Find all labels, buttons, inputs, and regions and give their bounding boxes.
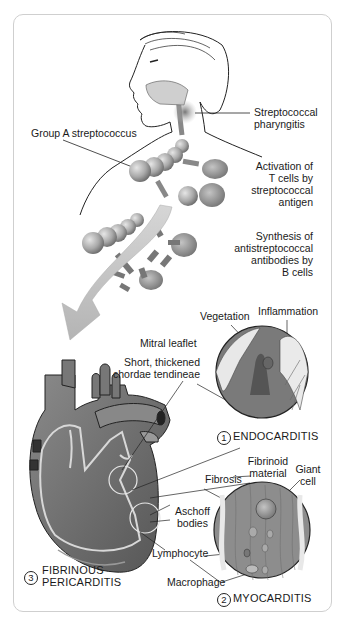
panel-2-myocarditis: 2MYOCARDITIS	[217, 592, 312, 607]
panel-title-fibrinous: FIBRINOUS	[42, 564, 121, 576]
label-giant-line2: cell	[290, 475, 326, 487]
label-pharyngitis-line2: pharyngitis	[254, 118, 305, 130]
label-bcell-line2: antistreptococcal	[234, 242, 313, 254]
panel-title-myocarditis: MYOCARDITIS	[233, 592, 312, 604]
label-vegetation: Vegetation	[200, 310, 250, 322]
t-cell	[199, 183, 225, 207]
endocarditis-inset	[216, 326, 308, 418]
label-lymphocyte: Lymphocyte	[152, 547, 208, 559]
panel-number-1: 1	[217, 431, 231, 445]
panel-3-pericarditis: 3 FIBRINOUS PERICARDITIS	[24, 564, 121, 588]
panel-number-2: 2	[217, 593, 231, 607]
panel-1-endocarditis: 1ENDOCARDITIS	[217, 430, 319, 445]
label-chordae-line2: chordae tendineae	[113, 368, 200, 380]
label-bcell-line3: antibodies by	[251, 254, 313, 266]
streptococcus-chain	[63, 139, 199, 198]
pharyngitis-spot	[173, 100, 197, 124]
label-fibrinoid-line2: material	[244, 467, 292, 479]
label-giant-line1: Giant	[290, 463, 326, 475]
label-bcell-line4: B cells	[282, 266, 313, 278]
label-fibrosis: Fibrosis	[205, 473, 242, 485]
label-tcell-line3: streptococcal	[251, 184, 313, 196]
label-macrophage: Macrophage	[167, 576, 225, 588]
label-group-a-streptococcus: Group A streptococcus	[31, 127, 137, 139]
label-aschoff-line1: Aschoff	[175, 505, 210, 517]
label-tcell-line2: T cells by	[269, 172, 313, 184]
label-aschoff-line2: bodies	[177, 517, 208, 529]
myocarditis-inset	[214, 482, 310, 580]
panel-number-3: 3	[24, 571, 38, 585]
t-cell	[202, 159, 228, 179]
heart-illustration	[30, 360, 170, 572]
label-mitral-leaflet: Mitral leaflet	[140, 337, 197, 349]
label-tcell-line1: Activation of	[256, 160, 313, 172]
panel-title-endocarditis: ENDOCARDITIS	[233, 430, 319, 442]
label-pharyngitis-line1: Streptococcal	[254, 106, 318, 118]
label-tcell-line4: antigen	[279, 196, 313, 208]
label-bcell-line1: Synthesis of	[256, 230, 313, 242]
label-inflammation: Inflammation	[258, 305, 318, 317]
label-chordae-line1: Short, thickened	[124, 356, 200, 368]
panel-title-pericarditis: PERICARDITIS	[42, 576, 121, 588]
label-fibrinoid-line1: Fibrinoid	[244, 455, 292, 467]
person-head-illustration	[80, 32, 262, 215]
